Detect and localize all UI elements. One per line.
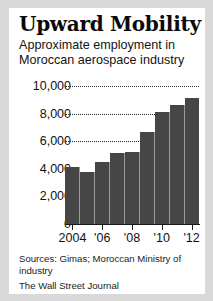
x-axis-tick <box>102 224 103 230</box>
bar <box>140 132 155 224</box>
bar <box>170 105 185 224</box>
bars-region <box>65 86 199 224</box>
bar <box>65 167 80 224</box>
bar <box>110 153 125 224</box>
x-axis-ticks <box>65 224 199 230</box>
x-axis-tick <box>72 224 73 230</box>
x-axis-tick-label: '06 <box>94 231 110 245</box>
bar <box>95 162 110 224</box>
bar <box>185 98 199 224</box>
x-axis-tick <box>162 224 163 230</box>
publisher-note: The Wall Street Journal <box>19 280 119 291</box>
chart-card: Upward Mobility Approximate employment i… <box>9 8 205 294</box>
x-axis-tick-label: '12 <box>183 231 199 245</box>
chart-subtitle: Approximate employment in Moroccan aeros… <box>19 38 201 68</box>
page-title: Upward Mobility <box>19 12 201 36</box>
x-axis-tick-label: 2004 <box>59 231 87 245</box>
chart-plot-area: 02,0004,0006,0008,00010,000 2004'06'08'1… <box>9 86 205 226</box>
x-axis-tick <box>132 224 133 230</box>
x-axis-labels: 2004'06'08'10'12 <box>65 231 199 249</box>
sources-note: Sources: Gimas; Moroccan Ministry of ind… <box>19 253 199 276</box>
bar <box>155 112 170 224</box>
x-axis-tick-label: '08 <box>124 231 140 245</box>
x-axis-tick <box>192 224 193 230</box>
bar <box>80 172 95 224</box>
bar-series <box>65 86 199 224</box>
x-axis-tick-label: '10 <box>154 231 170 245</box>
bar <box>125 152 140 224</box>
